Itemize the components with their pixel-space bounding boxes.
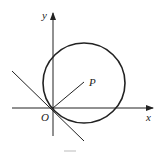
point-p-label: P [88, 76, 96, 88]
circle [43, 43, 125, 123]
coordinate-diagram: y x O P [0, 0, 163, 154]
x-axis-label: x [145, 111, 151, 123]
origin-label: O [41, 111, 49, 123]
tangent-line [12, 71, 84, 141]
y-axis-label: y [41, 9, 47, 21]
diagram-canvas: y x O P [0, 0, 163, 154]
segment-op [53, 82, 84, 108]
